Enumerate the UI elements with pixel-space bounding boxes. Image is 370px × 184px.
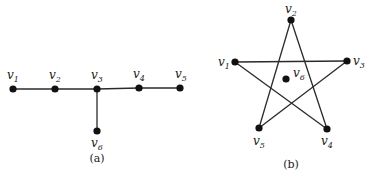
vertex-label-v2: v2 (285, 2, 297, 18)
vertex-label-v3: v3 (91, 68, 103, 84)
graph-a: v1v2v3v4v5v6 (a) (7, 67, 187, 165)
edge-v1-v3 (235, 61, 347, 62)
vertex-v1 (9, 85, 16, 92)
vertex-label-v4: v4 (321, 134, 333, 150)
vertex-v1 (231, 58, 238, 65)
vertex-v3 (343, 57, 350, 64)
vertex-label-v6: v6 (91, 136, 103, 152)
vertex-v5 (176, 84, 183, 91)
graph-a-caption: (a) (89, 152, 104, 165)
vertex-v5 (255, 124, 262, 131)
vertex-v3 (93, 85, 100, 92)
vertex-label-v1: v1 (218, 55, 230, 71)
graph-b-nodes: v1v2v3v4v5v6 (218, 2, 365, 150)
edge-v3-v4 (97, 88, 139, 89)
vertex-v2 (51, 85, 58, 92)
vertex-v6 (282, 75, 289, 82)
graph-b: v1v2v3v4v5v6 (b) (218, 2, 365, 171)
vertex-label-v5: v5 (253, 134, 265, 150)
graph-b-edges (235, 20, 347, 129)
vertex-label-v6: v6 (293, 66, 305, 82)
vertex-v4 (135, 84, 142, 91)
vertex-label-v4: v4 (133, 67, 145, 83)
graph-figure: v1v2v3v4v5v6 (a) v1v2v3v4v5v6 (b) (0, 0, 370, 184)
graph-a-edges (13, 88, 180, 131)
edge-v2-v5 (259, 20, 291, 128)
vertex-label-v3: v3 (353, 54, 365, 70)
graph-b-caption: (b) (283, 158, 299, 171)
vertex-label-v5: v5 (175, 67, 187, 83)
edge-v3-v5 (259, 61, 347, 128)
vertex-v4 (323, 125, 330, 132)
edge-v1-v4 (235, 62, 327, 129)
vertex-label-v1: v1 (7, 68, 19, 84)
vertex-v6 (93, 127, 100, 134)
vertex-label-v2: v2 (49, 68, 61, 84)
